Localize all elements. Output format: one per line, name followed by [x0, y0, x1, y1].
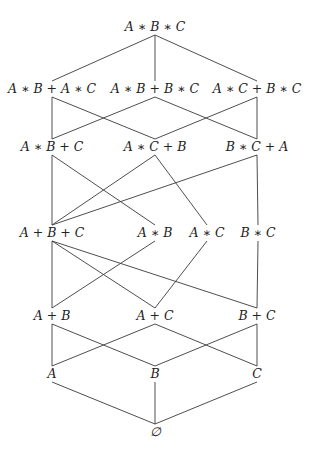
edge-bc_a-bc	[257, 155, 258, 225]
node-ac-plus-bc: A ∗ C + B ∗ C	[212, 82, 303, 96]
edge-c-empty	[155, 382, 257, 424]
node-b: B	[149, 367, 160, 381]
node-bc-plus-a: B ∗ C + A	[225, 140, 290, 154]
node-abc: A ∗ B ∗ C	[124, 20, 187, 34]
edge-a-empty	[52, 382, 155, 424]
node-a-plus-b: A + B	[33, 309, 72, 323]
node-ab-plus-ac: A ∗ B + A ∗ C	[7, 82, 97, 96]
node-a-plus-b-plus-c: A + B + C	[19, 226, 86, 240]
node-ab-plus-c: A ∗ B + C	[20, 140, 85, 154]
node-a: A	[46, 367, 57, 381]
node-ac-plus-b: A ∗ C + B	[123, 140, 188, 154]
node-c: C	[251, 367, 263, 381]
node-ac: A ∗ C	[188, 226, 225, 240]
node-ab: A ∗ B	[137, 226, 174, 240]
node-ab-plus-bc: A ∗ B + B ∗ C	[110, 82, 200, 96]
edge-abc-ac_bc	[155, 35, 257, 81]
edge-abc-ab_ac	[52, 35, 155, 81]
node-bc: B ∗ C	[239, 226, 276, 240]
edge-bc-b_c	[257, 241, 258, 308]
edge-ac-a_c	[155, 241, 207, 308]
node-a-plus-c: A + C	[135, 309, 174, 323]
lattice-diagram: A ∗ B ∗ C A ∗ B + A ∗ C A ∗ B + B ∗ C A …	[0, 0, 309, 459]
edge-a_b_c-b_c	[52, 241, 257, 308]
edge-bc_a-a_b_c	[52, 155, 257, 225]
node-b-plus-c: B + C	[237, 309, 276, 323]
node-empty-set: ∅	[149, 425, 162, 439]
edge-ac_b-ac	[155, 155, 207, 225]
